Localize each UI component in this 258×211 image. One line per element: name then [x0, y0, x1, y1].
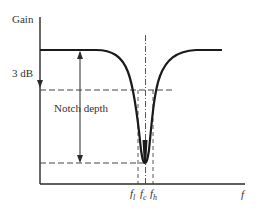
notch-filter-diagram: Gain 3 dB Notch depth f fl fc fh	[0, 0, 258, 211]
x-axis-label: f	[241, 188, 246, 200]
y-axis-label: Gain	[12, 13, 34, 25]
three-db-label: 3 dB	[12, 67, 33, 79]
diagram-svg: Gain 3 dB Notch depth f fl fc fh	[0, 0, 258, 211]
fh-sub: h	[153, 193, 157, 202]
fh-label: fh	[150, 187, 157, 202]
fc-label: fc	[140, 187, 147, 202]
fl-label: fl	[130, 187, 136, 202]
arrow-down-icon	[77, 155, 83, 163]
arrow-up-icon	[77, 51, 83, 59]
fl-sub: l	[133, 193, 136, 202]
notch-depth-label: Notch depth	[54, 102, 109, 114]
fc-sub: c	[143, 193, 147, 202]
three-db-arrow-icon	[37, 80, 43, 88]
